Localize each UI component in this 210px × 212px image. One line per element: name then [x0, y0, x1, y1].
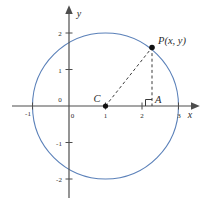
x-axis-label: x [187, 109, 193, 120]
x-tick-label-0: 0 [71, 112, 75, 120]
point-label-a: A [154, 94, 162, 105]
point-label-c: C [93, 93, 101, 104]
point-c-dot [103, 103, 108, 108]
y-tick-label-0: 0 [58, 96, 62, 104]
geometry-canvas: -1 0 1 2 3 2 1 0 -1 -2 x y C P(x, y) A [0, 0, 210, 212]
y-tick-label-2: 2 [58, 30, 62, 38]
x-tick-label-3: 3 [177, 112, 181, 120]
y-tick-label--1: -1 [56, 140, 62, 148]
x-tick-label-1: 1 [104, 112, 108, 120]
segment-c-to-p [106, 48, 153, 107]
point-label-p: P(x, y) [157, 35, 186, 47]
point-p-dot [149, 45, 155, 51]
right-angle-marker-icon [146, 100, 153, 107]
x-tick-label-2: 2 [140, 112, 144, 120]
x-tick-label--1: -1 [25, 110, 31, 118]
y-tick-label--2: -2 [56, 176, 62, 184]
y-tick-label-1: 1 [58, 67, 62, 75]
geometry-figure: -1 0 1 2 3 2 1 0 -1 -2 x y C P(x, y) A [0, 0, 210, 212]
y-axis-label: y [76, 8, 82, 19]
